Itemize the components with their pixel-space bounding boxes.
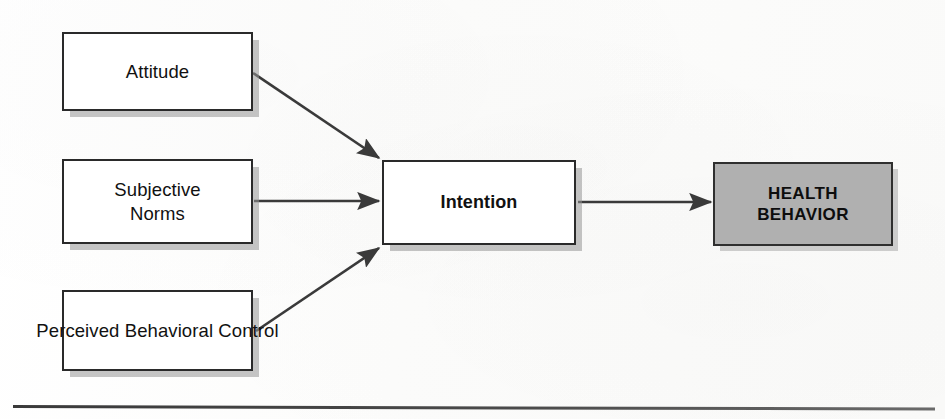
node-subjective-norms: Subjective Norms [62,159,253,244]
node-perceived-behavioral-control: Perceived Behavioral Control [62,290,253,371]
node-attitude: Attitude [62,32,253,111]
node-intention: Intention [382,160,576,245]
edge-attitude-to-intention [253,73,379,158]
node-attitude-label: Attitude [126,60,190,83]
node-intention-label: Intention [441,191,518,214]
footer-divider [13,405,935,411]
node-health-behavior: HEALTH BEHAVIOR [713,162,893,246]
node-perceived-behavioral-control-label: Perceived Behavioral Control [36,319,278,342]
node-subjective-norms-label: Subjective Norms [114,178,200,224]
node-health-behavior-label: HEALTH BEHAVIOR [757,183,849,226]
figure-canvas: Attitude Subjective Norms Perceived Beha… [0,0,945,419]
